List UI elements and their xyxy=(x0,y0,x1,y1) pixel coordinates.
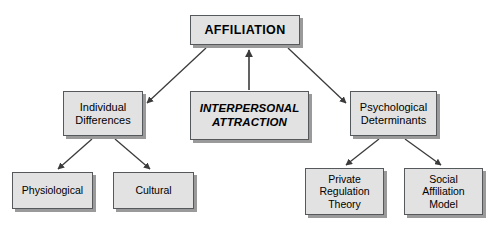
node-interpersonal-attraction-label: INTERPERSONAL ATTRACTION xyxy=(191,102,308,129)
node-affiliation[interactable]: AFFILIATION xyxy=(190,15,300,45)
edge-individual-differences-to-physiological xyxy=(58,139,92,169)
node-psychological-determinants[interactable]: Psychological Determinants xyxy=(350,91,437,136)
edge-psychological-determinants-to-private-regulation-theory xyxy=(346,139,379,165)
node-physiological-label: Physiological xyxy=(13,184,92,196)
node-individual-differences[interactable]: Individual Differences xyxy=(63,91,143,136)
node-interpersonal-attraction[interactable]: INTERPERSONAL ATTRACTION xyxy=(190,91,309,140)
node-psychological-determinants-label: Psychological Determinants xyxy=(351,101,436,127)
concept-map-diagram: AFFILIATION INTERPERSONAL ATTRACTION Ind… xyxy=(0,0,494,236)
edge-individual-differences-to-cultural xyxy=(115,139,150,169)
node-cultural-label: Cultural xyxy=(114,184,193,196)
edge-psychological-determinants-to-social-affiliation-model xyxy=(405,139,441,165)
node-affiliation-label: AFFILIATION xyxy=(191,23,299,38)
node-social-affiliation-model-label: Social Affiliation Model xyxy=(405,173,482,210)
node-private-regulation-theory-label: Private Regulation Theory xyxy=(306,173,383,210)
node-social-affiliation-model[interactable]: Social Affiliation Model xyxy=(404,168,483,215)
node-physiological[interactable]: Physiological xyxy=(12,172,93,209)
node-private-regulation-theory[interactable]: Private Regulation Theory xyxy=(305,168,384,215)
node-cultural[interactable]: Cultural xyxy=(113,172,194,209)
node-individual-differences-label: Individual Differences xyxy=(64,101,142,127)
